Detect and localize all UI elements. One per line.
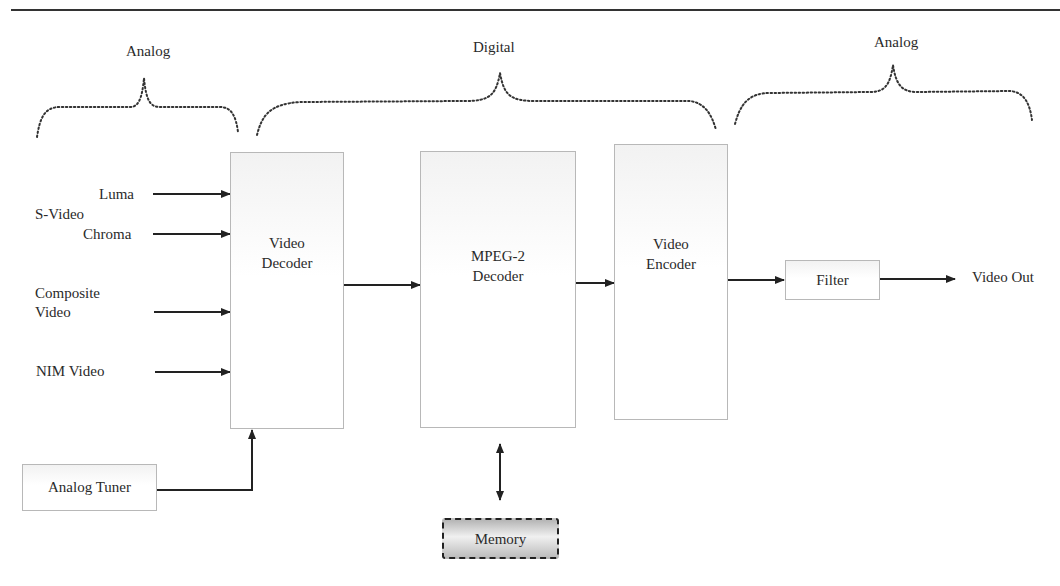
brace-analog-left [37,78,238,137]
region-label-analog-in: Analog [126,42,170,60]
mpeg2-decoder-label-2: Decoder [421,266,575,287]
video-out-label: Video Out [972,268,1034,286]
mpeg2-decoder-label-1: MPEG-2 [421,246,575,267]
input-label-luma: Luma [99,185,134,203]
arrow-tuner [157,430,252,490]
video-decoder-label-2: Decoder [231,253,343,274]
input-label-composite-2: Video [35,303,71,321]
analog-tuner-label: Analog Tuner [23,477,156,498]
mpeg2-decoder-block: MPEG-2 Decoder [420,151,576,428]
video-encoder-label-1: Video [615,234,727,255]
filter-block: Filter [785,260,880,300]
memory-block: Memory [442,518,559,559]
input-group-label-svideo: S-Video [35,205,84,223]
video-decoder-label-1: Video [231,233,343,254]
video-decoder-block: Video Decoder [230,152,344,429]
input-label-composite-1: Composite [35,284,100,302]
brace-digital [257,73,716,135]
video-encoder-label-2: Encoder [615,254,727,275]
region-label-digital: Digital [473,38,515,56]
input-label-chroma: Chroma [83,225,131,243]
filter-label: Filter [786,270,879,291]
memory-label: Memory [444,529,557,550]
brace-analog-right [735,65,1032,124]
video-encoder-block: Video Encoder [614,144,728,420]
region-label-analog-out: Analog [874,33,918,51]
input-label-nim: NIM Video [36,362,104,380]
analog-tuner-block: Analog Tuner [22,464,157,511]
